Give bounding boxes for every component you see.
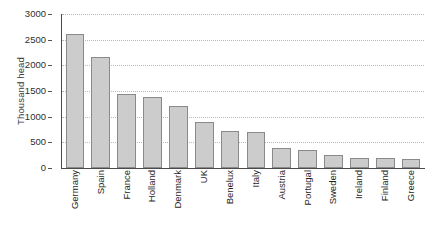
y-tick-mark [48, 65, 52, 66]
x-label-slot: Austria [269, 170, 295, 226]
x-label-slot: Holland [140, 170, 166, 226]
x-tick-label: Denmark [174, 170, 184, 209]
bar [298, 150, 317, 168]
bar-chart: Thousand head 050010001500200025003000 G… [0, 0, 448, 226]
x-tick-label: Ireland [355, 170, 365, 199]
x-label-slot: Italy [243, 170, 269, 226]
x-tick-label: France [122, 170, 132, 200]
x-label-slot: Sweden [321, 170, 347, 226]
bar [117, 94, 136, 168]
x-tick-label: Italy [251, 170, 261, 187]
x-axis-labels: GermanySpainFranceHollandDenmarkUKBenelu… [62, 170, 424, 226]
x-tick-label: Finland [380, 170, 390, 201]
bar [272, 148, 291, 168]
bar [402, 159, 421, 168]
bar [66, 34, 85, 168]
y-tick-label: 0 [0, 163, 46, 173]
x-label-slot: Ireland [346, 170, 372, 226]
x-label-slot: Finland [372, 170, 398, 226]
y-tick-label: 1500 [0, 86, 46, 96]
bar-series [62, 14, 424, 168]
x-tick-label: Portugal [303, 170, 313, 205]
x-label-slot: Greece [398, 170, 424, 226]
bar [221, 131, 240, 168]
x-label-slot: Denmark [165, 170, 191, 226]
x-tick-label: Holland [148, 170, 158, 202]
bar [169, 106, 188, 168]
y-tick-label: 500 [0, 137, 46, 147]
y-tick-mark [48, 117, 52, 118]
y-tick-label: 3000 [0, 9, 46, 19]
x-tick-label: Germany [70, 170, 80, 209]
y-tick-label: 2500 [0, 35, 46, 45]
bar [247, 132, 266, 168]
x-tick-label: Austria [277, 170, 287, 200]
x-label-slot: Portugal [295, 170, 321, 226]
x-label-slot: Germany [62, 170, 88, 226]
y-tick-label: 1000 [0, 112, 46, 122]
y-axis-ticks: 050010001500200025003000 [0, 14, 52, 168]
bar [195, 122, 214, 168]
y-tick-mark [48, 142, 52, 143]
bar [350, 158, 369, 168]
bar [376, 158, 395, 168]
x-label-slot: UK [191, 170, 217, 226]
y-tick-mark [48, 168, 52, 169]
x-tick-label: Spain [96, 170, 106, 194]
bar [324, 155, 343, 168]
x-tick-label: Sweden [329, 170, 339, 204]
x-label-slot: France [114, 170, 140, 226]
bar [91, 57, 110, 168]
x-axis-line [61, 168, 425, 169]
y-tick-mark [48, 91, 52, 92]
y-tick-mark [48, 40, 52, 41]
x-tick-label: Benelux [225, 170, 235, 204]
x-label-slot: Benelux [217, 170, 243, 226]
x-label-slot: Spain [88, 170, 114, 226]
x-tick-label: Greece [406, 170, 416, 201]
bar [143, 97, 162, 168]
y-tick-mark [48, 14, 52, 15]
y-tick-label: 2000 [0, 60, 46, 70]
x-tick-label: UK [199, 170, 209, 183]
